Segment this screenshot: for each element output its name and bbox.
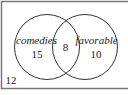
venn-diagram: comedies 15 8 favorable 10 12 [0, 0, 128, 95]
value-favorable-only: 10 [91, 48, 103, 60]
value-outside: 12 [6, 74, 17, 86]
circle-comedies [15, 15, 80, 80]
value-intersection: 8 [63, 41, 69, 53]
set-label-comedies: comedies [16, 34, 57, 46]
set-label-favorable: favorable [75, 34, 117, 46]
value-comedies-only: 15 [32, 48, 44, 60]
